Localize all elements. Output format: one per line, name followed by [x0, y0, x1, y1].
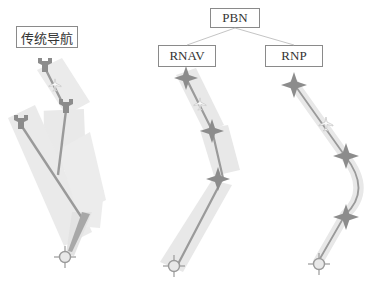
traditional-navigation-diagram [8, 58, 106, 268]
rnp-diagram [281, 72, 359, 275]
rnav-diagram [160, 66, 240, 277]
pbn-tree-connectors [187, 28, 294, 45]
navigation-diagram [0, 0, 377, 290]
